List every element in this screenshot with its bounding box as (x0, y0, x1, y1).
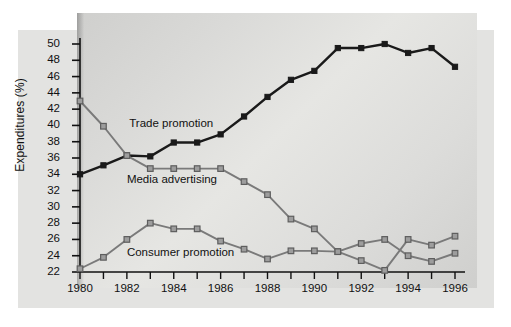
x-axis-tick-label: 1992 (338, 282, 384, 294)
x-axis-tick-label: 1982 (104, 282, 150, 294)
y-axis-tick-label: 38 (34, 135, 60, 147)
x-axis-tick-label: 1986 (198, 282, 244, 294)
series-marker (101, 255, 107, 261)
series-marker (195, 140, 200, 145)
series-marker (171, 166, 177, 172)
series-marker (218, 238, 224, 244)
x-axis-tick-label: 1996 (432, 282, 478, 294)
x-axis-tick-label: 1988 (245, 282, 291, 294)
series-marker (288, 248, 294, 254)
series-label-0: Trade promotion (129, 117, 213, 129)
series-marker (358, 241, 364, 247)
series-marker (335, 45, 340, 50)
y-axis-tick-label: 28 (34, 216, 60, 228)
series-marker (312, 68, 317, 73)
series-marker (265, 94, 270, 99)
series-marker (194, 226, 200, 232)
series-marker (101, 163, 106, 168)
series-marker (359, 45, 364, 50)
series-marker (288, 77, 293, 82)
series-marker (358, 258, 364, 264)
series-marker (382, 268, 388, 274)
y-axis-tick-label: 24 (34, 249, 60, 261)
y-axis-tick-label: 44 (34, 86, 60, 98)
series-marker (406, 50, 411, 55)
y-axis-tick-label: 48 (34, 53, 60, 65)
series-marker (429, 45, 434, 50)
series-marker (148, 220, 154, 226)
series-marker (77, 98, 83, 104)
series-marker (77, 172, 82, 177)
y-axis-tick-label: 30 (34, 200, 60, 212)
line-chart-plot (0, 0, 511, 327)
series-marker (124, 237, 130, 243)
series-marker (101, 123, 107, 129)
y-axis-tick-label: 36 (34, 151, 60, 163)
series-marker (405, 237, 411, 243)
y-axis-tick-label: 46 (34, 70, 60, 82)
x-axis-tick-label: 1984 (151, 282, 197, 294)
series-marker (218, 132, 223, 137)
series-marker (429, 242, 435, 248)
series-marker (382, 41, 387, 46)
y-axis-tick-label: 42 (34, 102, 60, 114)
x-axis-tick-label: 1994 (385, 282, 431, 294)
series-marker (124, 153, 130, 159)
series-marker (405, 253, 411, 259)
series-marker (77, 266, 83, 272)
series-marker (241, 179, 247, 185)
series-marker (148, 166, 154, 172)
y-axis-tick-label: 34 (34, 167, 60, 179)
y-axis-tick-label: 32 (34, 184, 60, 196)
x-axis-tick-label: 1990 (291, 282, 337, 294)
series-marker (265, 192, 271, 198)
y-axis-tick-label: 26 (34, 232, 60, 244)
series-marker (452, 250, 458, 256)
series-line-0 (80, 44, 455, 174)
series-marker (452, 233, 458, 239)
x-axis-tick-label: 1980 (57, 282, 103, 294)
series-marker (452, 64, 457, 69)
series-label-2: Consumer promotion (127, 246, 234, 258)
series-marker (382, 237, 388, 243)
series-marker (241, 114, 246, 119)
series-marker (265, 256, 271, 262)
series-marker (429, 259, 435, 265)
y-axis-tick-label: 22 (34, 265, 60, 277)
series-marker (335, 249, 341, 255)
y-axis-tick-label: 50 (34, 37, 60, 49)
series-marker (171, 226, 177, 232)
series-marker (288, 216, 294, 222)
series-marker (312, 248, 318, 254)
series-marker (148, 154, 153, 159)
series-marker (241, 246, 247, 252)
series-label-1: Media advertising (127, 173, 217, 185)
chart-figure: Expenditures (%) 22242628303234363840424… (0, 0, 511, 327)
series-marker (171, 140, 176, 145)
series-marker (312, 226, 318, 232)
series-marker (194, 166, 200, 172)
series-marker (218, 166, 224, 172)
y-axis-tick-label: 40 (34, 118, 60, 130)
